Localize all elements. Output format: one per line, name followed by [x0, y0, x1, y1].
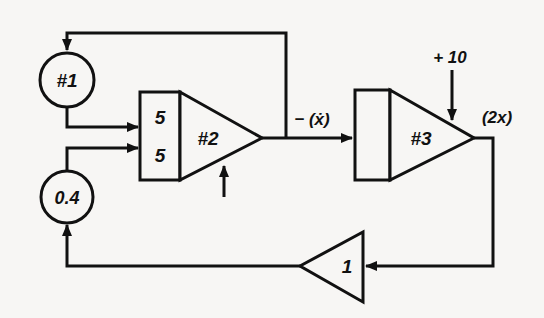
potentiometer-1-label: #1: [56, 70, 77, 91]
potentiometer-1: #1: [40, 53, 94, 107]
wire-inverter-to-pot2: [67, 225, 300, 266]
inverter-label: 1: [342, 256, 353, 277]
integrator-3: #3: [355, 90, 474, 180]
signal-label-2x: (2x): [482, 108, 513, 127]
inverter: 1: [300, 232, 363, 302]
integrator-3-initial-condition: + 10: [433, 48, 467, 67]
potentiometer-2-label: 0.4: [54, 188, 79, 208]
integrator-2-label: #2: [197, 128, 219, 149]
integrator-2-gain-upper: 5: [155, 107, 166, 128]
potentiometer-2: 0.4: [41, 171, 93, 223]
integrator-2: 5 5 #2: [140, 92, 262, 180]
signal-label-xdot: − (ẋ): [294, 110, 330, 129]
analog-computer-diagram: #1 5 5 #2 − (ẋ) #3 + 10 (2x) 1: [0, 0, 544, 318]
integrator-2-gain-lower: 5: [155, 145, 166, 166]
wire-pot2-to-int2: [67, 148, 138, 170]
integrator-3-label: #3: [410, 128, 432, 149]
wire-pot1-to-int2: [67, 107, 138, 127]
